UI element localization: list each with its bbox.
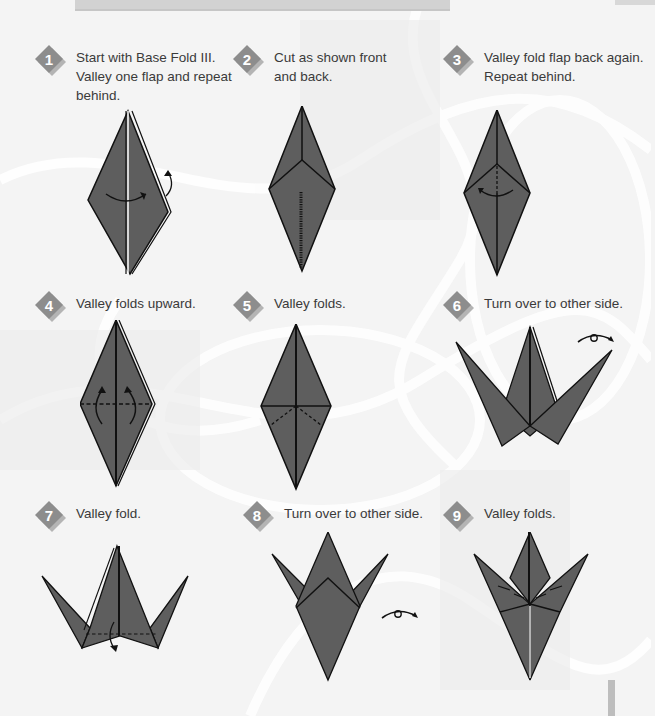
step-instruction: Turn over to other side. [484,294,623,313]
step-4: 4 Valley folds upward. [34,290,234,500]
step-instruction: Cut as shown front and back. [274,48,387,86]
step-number: 7 [45,507,53,524]
turn-over-icon [576,328,616,348]
step-6: 6 Turn over to other side. [442,290,651,470]
turn-over-icon [380,604,420,624]
step-instruction: Valley folds. [274,294,346,313]
step-instruction: Turn over to other side. [284,504,423,523]
step-1: 1 Start with Base Fold III. Valley one f… [34,44,234,274]
step-number: 2 [243,51,251,68]
step-instruction: Valley fold. [76,504,141,523]
top-banner-tab [615,0,655,5]
step-5: 5 Valley folds. [232,290,432,500]
step-instruction: Valley fold flap back again. Repeat behi… [484,48,644,86]
fold-diagram-step-7 [40,544,200,654]
step-number-badge: 2 [232,44,266,78]
step-number-badge: 5 [232,290,266,324]
fold-diagram-step-2 [268,106,368,276]
step-9: 9 Valley folds. [442,500,651,716]
step-number-badge: 1 [34,44,68,78]
fold-diagram-step-4 [80,320,180,495]
top-banner-edge [75,0,450,11]
fold-diagram-step-8 [270,532,390,692]
step-number-badge: 9 [442,500,476,534]
step-instruction: Start with Base Fold III. Valley one fla… [76,48,232,105]
step-instruction: Valley folds. [484,504,556,523]
step-3: 3 Valley fold flap back again. Repeat be… [442,44,651,274]
step-number-badge: 7 [34,500,68,534]
step-number: 5 [243,297,251,314]
step-number-badge: 6 [442,290,476,324]
fold-diagram-step-3 [462,110,562,280]
step-instruction: Valley folds upward. [76,294,196,313]
step-number: 3 [453,51,461,68]
fold-diagram-step-5 [260,324,360,494]
step-number: 4 [45,297,54,314]
fold-diagram-step-9 [472,532,592,692]
step-number: 9 [453,507,461,524]
step-number-badge: 4 [34,290,68,324]
step-2: 2 Cut as shown front and back. [232,44,432,274]
step-8: 8 Turn over to other side. [242,500,442,716]
step-number: 8 [253,507,261,524]
step-number-badge: 3 [442,44,476,78]
step-number: 1 [45,51,53,68]
fold-diagram-step-1 [78,108,178,278]
step-number-badge: 8 [242,500,276,534]
step-7: 7 Valley fold. [34,500,234,670]
step-number: 6 [453,297,461,314]
